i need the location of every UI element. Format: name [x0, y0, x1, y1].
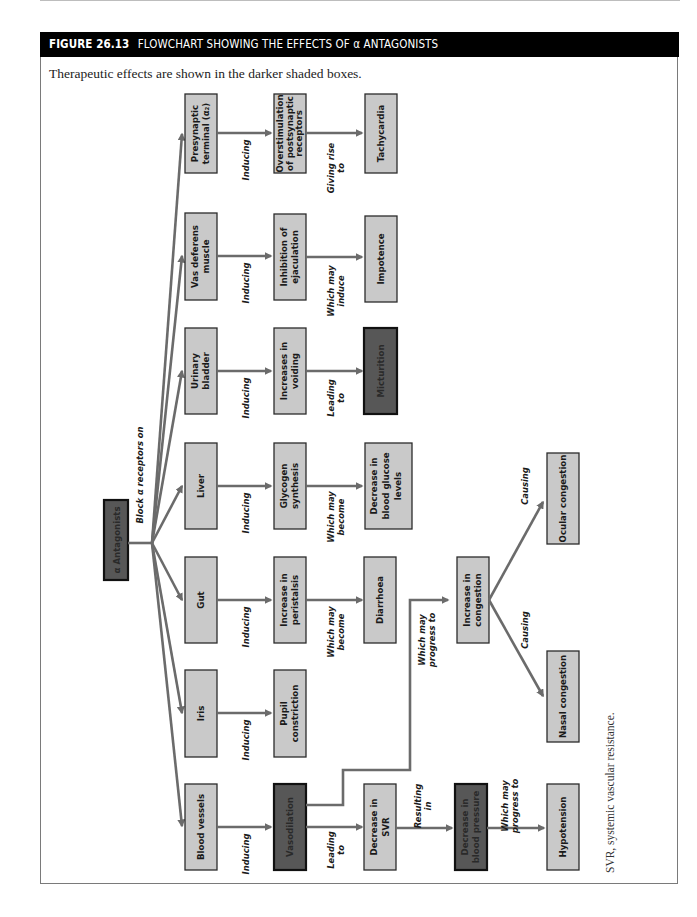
- svg-text:Increase in: Increase in: [462, 573, 472, 626]
- svg-text:Inducing: Inducing: [241, 834, 251, 875]
- figure-footnote: SVR, systemic vascular resistance.: [604, 712, 617, 873]
- outcome-edges: Giving rise to Which may induce Leading …: [306, 133, 362, 869]
- svg-text:synthesis: synthesis: [290, 463, 300, 509]
- svg-text:Inhibition of: Inhibition of: [279, 227, 289, 286]
- root-node-antagonists: α Antagonists: [104, 500, 128, 580]
- svg-text:constriction: constriction: [290, 685, 300, 743]
- svg-text:Increase in: Increase in: [279, 573, 289, 626]
- vascular-chain: Resulting in Decrease in blood pressure …: [396, 779, 579, 870]
- node-urinary-bladder: Urinary bladder: [185, 328, 217, 414]
- node-impotence: Impotence: [365, 216, 397, 302]
- svg-text:Liver: Liver: [196, 473, 206, 498]
- svg-text:Which may: Which may: [500, 780, 510, 832]
- svg-text:receptors: receptors: [294, 110, 304, 157]
- svg-text:to: to: [336, 845, 346, 855]
- svg-text:blood glucose: blood glucose: [381, 452, 391, 519]
- svg-text:Glycogen: Glycogen: [279, 464, 289, 509]
- svg-text:congestion: congestion: [473, 573, 483, 626]
- svg-text:to: to: [336, 163, 346, 173]
- column-targets: Presynaptic terminal (α₂) Vas deferens m…: [185, 94, 217, 870]
- svg-text:blood pressure: blood pressure: [471, 790, 481, 863]
- node-decrease-blood-glucose: Decrease in blood glucose levels: [365, 443, 412, 529]
- node-increase-congestion: Increase in congestion: [457, 557, 489, 643]
- svg-text:to: to: [336, 393, 346, 403]
- node-inhibition-ejaculation: Inhibition of ejaculation: [274, 214, 306, 300]
- node-gut: Gut: [185, 557, 217, 643]
- svg-text:Impotence: Impotence: [376, 233, 386, 284]
- svg-text:Vas deferens: Vas deferens: [190, 225, 200, 288]
- svg-text:of postsynaptic: of postsynaptic: [285, 96, 295, 171]
- svg-text:Pupil: Pupil: [279, 701, 289, 726]
- node-micturition: Micturition: [364, 328, 397, 414]
- node-presynaptic-terminal: Presynaptic terminal (α₂): [185, 94, 217, 173]
- node-liver: Liver: [185, 443, 217, 529]
- svg-text:Leading: Leading: [326, 379, 336, 417]
- svg-text:Blood vessels: Blood vessels: [196, 794, 206, 860]
- svg-text:Decrease in: Decrease in: [369, 458, 379, 515]
- svg-text:Decrease in: Decrease in: [460, 799, 470, 856]
- svg-text:Iris: Iris: [196, 706, 206, 722]
- inducing-edges: Inducing Inducing Inducing Inducing Indu…: [217, 133, 271, 874]
- svg-text:muscle: muscle: [201, 239, 211, 273]
- node-diarrhoea: Diarrhoea: [364, 557, 396, 643]
- node-ocular-congestion: Ocular congestion: [547, 453, 579, 544]
- svg-text:Presynaptic: Presynaptic: [190, 105, 200, 162]
- svg-text:Leading: Leading: [326, 831, 336, 869]
- svg-text:levels: levels: [393, 472, 403, 500]
- svg-text:Ocular congestion: Ocular congestion: [558, 455, 568, 543]
- fan-arrows: [152, 134, 182, 826]
- svg-text:Increases in: Increases in: [279, 342, 289, 400]
- node-increase-peristalsis: Increase in peristalsis: [274, 557, 306, 643]
- node-nasal-congestion: Nasal congestion: [547, 651, 579, 742]
- node-iris: Iris: [185, 670, 217, 757]
- node-vas-deferens: Vas deferens muscle: [185, 213, 217, 300]
- svg-text:in: in: [423, 802, 433, 811]
- svg-text:Which may: Which may: [326, 606, 336, 658]
- svg-text:Which may: Which may: [326, 491, 336, 543]
- svg-text:Causing: Causing: [520, 611, 530, 649]
- arrow-to-ocular: [489, 502, 543, 600]
- column-outcomes: Tachycardia Impotence Micturition Decrea…: [364, 94, 412, 870]
- svg-text:Inducing: Inducing: [241, 140, 251, 181]
- node-overstimulation: Overstimulation of postsynaptic receptor…: [274, 94, 306, 173]
- node-decrease-svr: Decrease in SVR: [364, 784, 396, 870]
- arrow-to-nasal: [489, 600, 543, 696]
- svg-text:progress to: progress to: [427, 613, 437, 669]
- svg-text:Urinary: Urinary: [190, 353, 200, 389]
- svg-text:Hypotension: Hypotension: [558, 797, 568, 858]
- root-edge-label: Block α receptors on: [135, 426, 145, 523]
- svg-text:Giving rise: Giving rise: [326, 142, 336, 193]
- node-decrease-blood-pressure: Decrease in blood pressure: [455, 784, 487, 870]
- svg-text:peristalsis: peristalsis: [290, 575, 300, 625]
- svg-text:Vasodilation: Vasodilation: [285, 797, 295, 857]
- arrow-to-presynaptic: [152, 134, 182, 543]
- flowchart: α Antagonists Block α receptors on Presy…: [0, 0, 697, 917]
- svg-text:Nasal congestion: Nasal congestion: [558, 655, 568, 738]
- svg-text:Inducing: Inducing: [241, 607, 251, 648]
- node-glycogen-synthesis: Glycogen synthesis: [274, 443, 306, 529]
- column-effects: Overstimulation of postsynaptic receptor…: [274, 94, 306, 870]
- svg-text:Inducing: Inducing: [241, 720, 251, 761]
- node-increases-voiding: Increases in voiding: [274, 328, 306, 414]
- svg-text:become: become: [336, 613, 346, 650]
- svg-text:ejaculation: ejaculation: [290, 230, 300, 284]
- node-pupil-constriction: Pupil constriction: [274, 670, 306, 757]
- svg-text:bladder: bladder: [201, 352, 211, 390]
- svg-text:Which may: Which may: [417, 614, 427, 666]
- svg-text:induce: induce: [336, 275, 346, 307]
- svg-text:Gut: Gut: [196, 591, 206, 608]
- node-tachycardia: Tachycardia: [365, 94, 397, 173]
- svg-text:Inducing: Inducing: [241, 378, 251, 419]
- svg-text:SVR: SVR: [381, 817, 391, 837]
- svg-text:Micturition: Micturition: [376, 344, 386, 397]
- svg-text:Which may: Which may: [326, 265, 336, 317]
- node-hypotension: Hypotension: [547, 784, 579, 870]
- root-label: α Antagonists: [112, 506, 122, 573]
- svg-text:Inducing: Inducing: [241, 493, 251, 534]
- svg-text:Causing: Causing: [520, 467, 530, 505]
- node-blood-vessels: Blood vessels: [185, 784, 217, 870]
- svg-text:progress to: progress to: [510, 779, 520, 835]
- congestion-chain: Which may progress to Increase in conges…: [306, 453, 579, 805]
- svg-text:terminal (α₂): terminal (α₂): [201, 103, 211, 165]
- svg-text:voiding: voiding: [290, 353, 300, 389]
